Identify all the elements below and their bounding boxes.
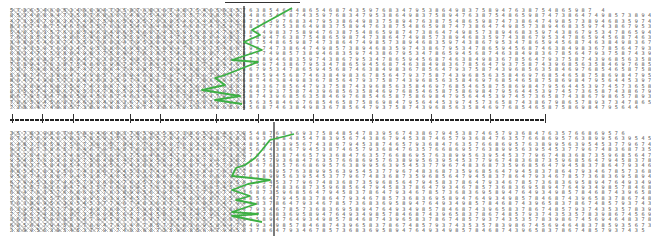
separator-tick: [160, 114, 161, 123]
separator-tick: [313, 114, 314, 123]
separator-tick: [42, 114, 43, 123]
separator-tick: [12, 114, 13, 123]
separator-tick: [490, 114, 491, 123]
separator-tick: [372, 114, 373, 123]
separator-tick: [258, 114, 259, 123]
separator-tick: [545, 114, 546, 123]
separator-tick: [73, 114, 74, 123]
separator-tick: [431, 114, 432, 123]
separator-tick: [216, 114, 217, 123]
scanpath-line: [232, 134, 294, 222]
separator-tick: [130, 114, 131, 123]
